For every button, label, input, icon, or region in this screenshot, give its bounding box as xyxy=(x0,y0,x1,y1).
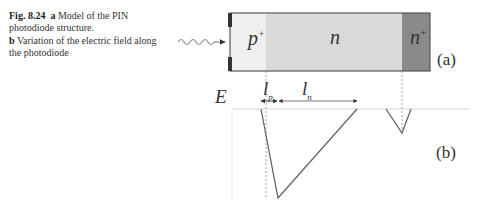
n-label: n xyxy=(330,26,340,49)
device-structure xyxy=(178,13,430,71)
field-profile-main xyxy=(261,109,357,198)
panel-b-label: (b) xyxy=(436,143,456,163)
panel-a-label: (a) xyxy=(437,50,456,70)
ln-label: ln xyxy=(302,78,312,102)
p-plus-label: p+ xyxy=(248,27,265,50)
top-contact xyxy=(228,13,232,27)
field-profile-nplus xyxy=(386,109,411,133)
y-axis-label: E xyxy=(215,86,227,108)
lp-label: lp xyxy=(263,78,273,102)
bottom-contact xyxy=(228,57,232,71)
n-plus-label: n+ xyxy=(410,26,427,49)
electric-field-plot xyxy=(232,101,470,200)
incident-light-icon xyxy=(178,40,214,45)
pin-photodiode-figure xyxy=(0,0,480,203)
